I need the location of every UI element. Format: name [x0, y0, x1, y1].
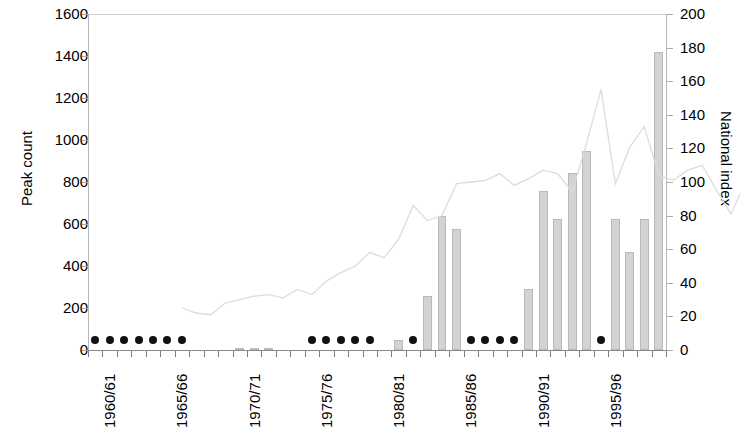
x-axis-tick-mark: [579, 351, 580, 357]
y-axis-left-tick-label: 800: [28, 174, 88, 189]
y-axis-right-tick-mark: [667, 81, 673, 82]
y-axis-right-tick-label: 100: [680, 174, 740, 189]
y-axis-right-tick-mark: [667, 216, 673, 217]
y-axis-left-tick-label: 1200: [28, 90, 88, 105]
x-axis-tick-mark: [88, 351, 89, 357]
x-axis-tick-mark: [102, 351, 103, 357]
y-axis-right-tick-label: 0: [680, 342, 740, 357]
x-axis-tick-mark: [363, 351, 364, 357]
y-axis-left-tick-label: 400: [28, 258, 88, 273]
y-axis-left-tick-label: 600: [28, 216, 88, 231]
x-axis-tick-label: 1975/76: [318, 374, 335, 428]
x-axis-tick-mark: [550, 351, 551, 357]
x-axis-tick-mark: [218, 351, 219, 357]
x-axis-tick-mark: [623, 351, 624, 357]
x-axis-tick-mark: [449, 351, 450, 357]
y-axis-right-tick-label: 20: [680, 308, 740, 323]
x-axis-tick-mark: [319, 351, 320, 357]
y-axis-right-tick-mark: [667, 283, 673, 284]
x-axis-tick-label: 1970/71: [246, 374, 263, 428]
y-axis-left-tick-label: 0: [28, 342, 88, 357]
x-axis-tick-mark: [175, 351, 176, 357]
x-axis-tick-mark: [189, 351, 190, 357]
y-axis-right-tick-label: 200: [680, 6, 740, 21]
x-axis-tick-mark: [160, 351, 161, 357]
y-axis-right-tick-mark: [667, 148, 673, 149]
y-axis-right-line: [666, 14, 667, 351]
x-axis-tick-mark: [391, 351, 392, 357]
x-axis-tick-mark: [420, 351, 421, 357]
plot-area: [88, 14, 666, 350]
x-axis-tick-label: 1985/86: [462, 374, 479, 428]
national-index-line-series: [88, 14, 666, 350]
y-axis-right-tick-mark: [667, 249, 673, 250]
x-axis-tick-mark: [637, 351, 638, 357]
x-axis-tick-label: 1965/66: [173, 374, 190, 428]
x-axis-tick-label: 1960/61: [101, 374, 118, 428]
y-axis-right-tick-label: 140: [680, 107, 740, 122]
x-axis-tick-mark: [435, 351, 436, 357]
y-axis-right-tick-label: 120: [680, 140, 740, 155]
y-axis-left-tick-label: 1000: [28, 132, 88, 147]
x-axis-tick-mark: [507, 351, 508, 357]
x-axis-tick-mark: [377, 351, 378, 357]
y-axis-right-tick-mark: [667, 350, 673, 351]
y-axis-right-tick-label: 60: [680, 241, 740, 256]
y-axis-right-tick-mark: [667, 182, 673, 183]
x-axis-tick-mark: [117, 351, 118, 357]
x-axis-tick-mark: [261, 351, 262, 357]
y-axis-left-tick-label: 1600: [28, 6, 88, 21]
x-axis-tick-mark: [652, 351, 653, 357]
y-axis-left-tick-label: 1400: [28, 48, 88, 63]
x-axis-tick-label: 1995/96: [607, 374, 624, 428]
x-axis-tick-mark: [276, 351, 277, 357]
y-axis-right-tick-mark: [667, 316, 673, 317]
y-axis-left-title: Peak count: [18, 114, 35, 224]
y-axis-left-tick-label: 200: [28, 300, 88, 315]
x-axis-tick-mark: [290, 351, 291, 357]
x-axis-tick-mark: [334, 351, 335, 357]
x-axis-tick-mark: [464, 351, 465, 357]
x-axis-tick-mark: [594, 351, 595, 357]
x-axis-tick-mark: [305, 351, 306, 357]
x-axis-tick-mark: [565, 351, 566, 357]
y-axis-right-tick-mark: [667, 48, 673, 49]
x-axis-tick-mark: [478, 351, 479, 357]
national-index-polyline: [182, 51, 740, 315]
y-axis-right-tick-mark: [667, 14, 673, 15]
x-axis-tick-mark: [233, 351, 234, 357]
x-axis-tick-mark: [131, 351, 132, 357]
x-axis-tick-mark: [608, 351, 609, 357]
x-axis-tick-mark: [666, 351, 667, 357]
y-axis-right-tick-mark: [667, 115, 673, 116]
x-axis-tick-mark: [522, 351, 523, 357]
x-axis-tick-mark: [146, 351, 147, 357]
x-axis-tick-mark: [348, 351, 349, 357]
x-axis-tick-mark: [493, 351, 494, 357]
x-axis-tick-mark: [406, 351, 407, 357]
x-axis-tick-mark: [247, 351, 248, 357]
y-axis-right-tick-label: 180: [680, 40, 740, 55]
x-axis-tick-mark: [536, 351, 537, 357]
x-axis-tick-mark: [204, 351, 205, 357]
y-axis-right-tick-label: 160: [680, 73, 740, 88]
x-axis-tick-label: 1990/91: [535, 374, 552, 428]
y-axis-right-tick-label: 40: [680, 275, 740, 290]
x-axis-tick-label: 1980/81: [390, 374, 407, 428]
